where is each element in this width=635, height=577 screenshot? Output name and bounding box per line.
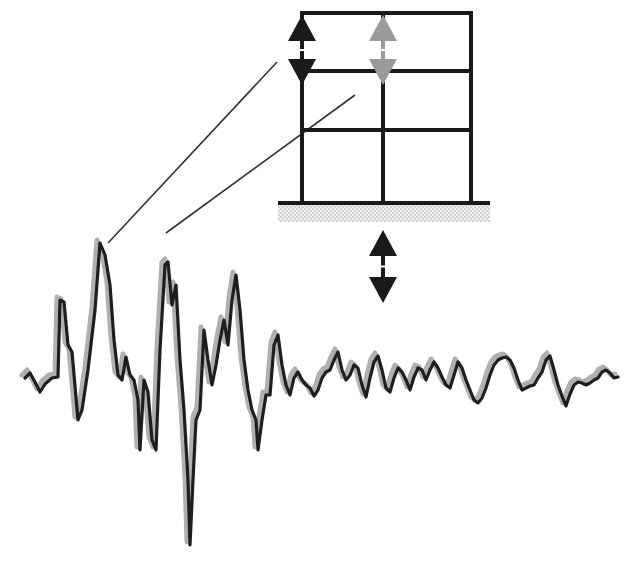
roof-middle-displacement-arrow-icon [369,15,397,85]
waveform-primary-trace [25,243,618,545]
seismic-diagram: Seismic ground motion record with buildi… [0,0,635,577]
diagram-canvas [0,0,635,577]
building-frame [302,13,471,203]
ground-displacement-arrow-icon [369,230,397,303]
displacement-arrows [288,15,397,303]
leader-line-1 [108,62,277,243]
ground-hatch [278,205,490,222]
roof-left-displacement-arrow-icon [288,15,316,85]
ground-motion-waveform [22,240,618,545]
